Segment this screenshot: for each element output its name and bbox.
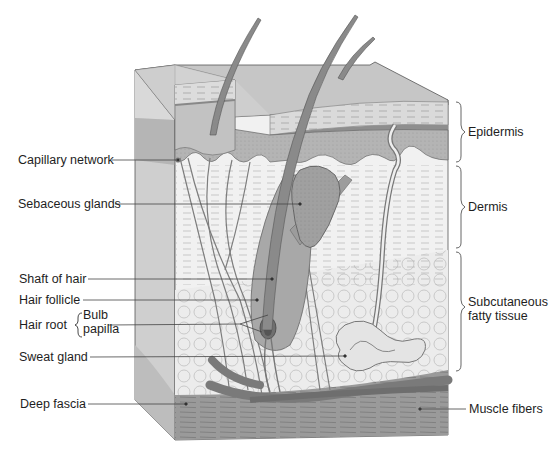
label-fatty-tissue: fatty tissue xyxy=(468,309,528,323)
label-deep-fascia: Deep fascia xyxy=(20,397,86,411)
label-sweat-gland: Sweat gland xyxy=(19,350,88,364)
label-hair-root: Hair root xyxy=(19,318,67,332)
left-face xyxy=(135,65,175,440)
label-muscle-fibers: Muscle fibers xyxy=(469,402,543,416)
label-epidermis: Epidermis xyxy=(468,125,524,139)
skin-cross-section-illustration xyxy=(0,0,556,458)
skin-diagram: Capillary network Sebaceous glands Shaft… xyxy=(0,0,556,458)
hair-root-brace xyxy=(75,313,82,337)
label-bulb: Bulb xyxy=(83,308,108,322)
label-hair-follicle: Hair follicle xyxy=(19,293,80,307)
label-capillary-network: Capillary network xyxy=(18,153,114,167)
label-dermis: Dermis xyxy=(468,200,508,214)
label-sebaceous-glands: Sebaceous glands xyxy=(18,197,121,211)
label-shaft-of-hair: Shaft of hair xyxy=(19,272,86,286)
label-subcutaneous: Subcutaneous xyxy=(468,295,548,309)
label-papilla: papilla xyxy=(83,322,119,336)
